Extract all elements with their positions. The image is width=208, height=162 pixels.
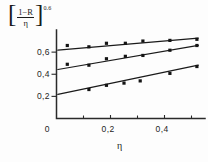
- plot-area: [0, 0, 208, 162]
- trend-lines: [58, 38, 198, 94]
- figure-container: [ 1−R η ] 0.6 0,6 0,4 0,2 0 0,2 0,4 η: [0, 0, 208, 162]
- axes-group: [52, 30, 206, 119]
- axis-lines: [57, 30, 206, 119]
